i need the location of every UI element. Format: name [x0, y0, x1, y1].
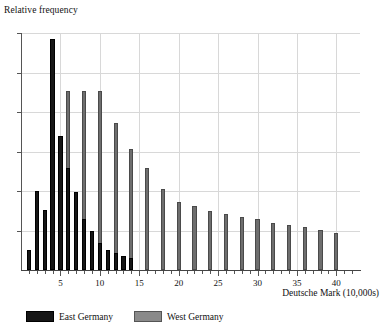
legend-swatch-west — [134, 311, 162, 322]
bar-west-14 — [129, 149, 133, 270]
x-axis-tick-label: 30 — [253, 278, 262, 288]
bar-east-4 — [50, 39, 54, 270]
x-axis-tick-minor — [242, 271, 243, 274]
x-axis-tick-major — [297, 271, 298, 276]
x-axis-tick-minor — [194, 271, 195, 274]
bar-west-12 — [114, 123, 118, 270]
x-axis-tick-label: 10 — [95, 278, 104, 288]
gridline-horizontal — [21, 231, 360, 232]
x-axis-tick-minor — [344, 271, 345, 274]
bar-west-26 — [224, 214, 228, 270]
x-axis-tick-minor — [289, 271, 290, 274]
x-axis-tick-major — [100, 271, 101, 276]
x-axis-tick-minor — [305, 271, 306, 274]
x-axis-tick-label: 15 — [135, 278, 144, 288]
legend-swatch-east — [26, 311, 54, 322]
x-axis-tick-minor — [53, 271, 54, 274]
bar-east-13 — [121, 256, 125, 270]
bar-east-1 — [27, 250, 31, 270]
x-axis-label: Deutsche Mark (10,000s) — [282, 288, 379, 298]
x-axis-tick-label: 20 — [174, 278, 183, 288]
x-axis-tick-minor — [210, 271, 211, 274]
bar-west-22 — [192, 206, 196, 270]
x-axis-tick-major — [139, 271, 140, 276]
bar-west-32 — [271, 223, 275, 270]
y-axis-label: Relative frequency — [4, 5, 78, 15]
x-axis-tick-label: 5 — [58, 278, 63, 288]
bar-west-30 — [255, 219, 259, 270]
bar-west-28 — [240, 217, 244, 270]
bar-west-20 — [177, 202, 181, 270]
bar-east-6 — [66, 168, 70, 270]
bar-west-24 — [208, 211, 212, 270]
y-axis-line — [21, 33, 22, 271]
x-axis-tick-minor — [281, 271, 282, 274]
bar-east-7 — [74, 192, 78, 270]
legend-label-west: West Germany — [167, 312, 223, 322]
chart-legend: East GermanyWest Germany — [26, 311, 238, 322]
x-axis-tick-minor — [147, 271, 148, 274]
bar-east-12 — [114, 253, 118, 270]
x-axis-tick-minor — [76, 271, 77, 274]
x-axis-tick-minor — [352, 271, 353, 274]
bar-west-40 — [334, 233, 338, 270]
bar-west-36 — [303, 227, 307, 270]
x-axis-tick-minor — [84, 271, 85, 274]
gridline-horizontal — [21, 73, 360, 74]
bar-east-9 — [90, 231, 94, 270]
x-axis-tick-minor — [265, 271, 266, 274]
x-axis-tick-major — [258, 271, 259, 276]
x-axis-tick-minor — [226, 271, 227, 274]
x-axis-tick-minor — [321, 271, 322, 274]
legend-item-east: East Germany — [26, 311, 113, 322]
x-axis-tick-minor — [313, 271, 314, 274]
x-axis-tick-minor — [45, 271, 46, 274]
x-axis-tick-minor — [131, 271, 132, 274]
bar-west-18 — [161, 189, 165, 270]
bar-west-34 — [287, 225, 291, 270]
x-axis-tick-minor — [163, 271, 164, 274]
bar-east-2 — [35, 191, 39, 270]
x-axis-tick-label: 25 — [214, 278, 223, 288]
x-axis-tick-minor — [123, 271, 124, 274]
gridline-vertical — [218, 33, 219, 270]
x-axis-tick-label: 35 — [292, 278, 301, 288]
x-axis-tick-label: 40 — [332, 278, 341, 288]
gridline-horizontal — [21, 112, 360, 113]
x-axis-tick-minor — [234, 271, 235, 274]
x-axis-tick-major — [336, 271, 337, 276]
x-axis-tick-minor — [202, 271, 203, 274]
x-axis-tick-minor — [92, 271, 93, 274]
gridline-horizontal — [21, 191, 360, 192]
x-axis-tick-minor — [37, 271, 38, 274]
legend-item-west: West Germany — [134, 311, 223, 322]
bar-east-3 — [43, 210, 47, 270]
plot-area — [21, 33, 360, 270]
gridline-vertical — [139, 33, 140, 270]
bar-east-8 — [82, 219, 86, 270]
bar-west-16 — [145, 168, 149, 270]
x-axis-tick-minor — [155, 271, 156, 274]
x-axis-tick-minor — [187, 271, 188, 274]
bar-east-10 — [98, 243, 102, 270]
x-axis-tick-minor — [108, 271, 109, 274]
x-axis-tick-minor — [29, 271, 30, 274]
x-axis-tick-minor — [68, 271, 69, 274]
legend-label-east: East Germany — [59, 312, 113, 322]
gridline-vertical — [297, 33, 298, 270]
x-axis-tick-minor — [328, 271, 329, 274]
x-axis-tick-minor — [273, 271, 274, 274]
x-axis-tick-minor — [171, 271, 172, 274]
gridline-horizontal — [21, 152, 360, 153]
x-axis-tick-major — [218, 271, 219, 276]
bar-west-38 — [318, 230, 322, 270]
bar-east-11 — [106, 250, 110, 270]
bar-east-14 — [129, 258, 133, 270]
x-axis-tick-minor — [250, 271, 251, 274]
bar-east-5 — [58, 136, 62, 270]
x-axis-tick-major — [60, 271, 61, 276]
gridline-horizontal — [21, 33, 360, 34]
x-axis-tick-major — [179, 271, 180, 276]
x-axis-tick-minor — [116, 271, 117, 274]
relative-frequency-bar-chart: Relative frequency 510152025303540 Deuts… — [0, 0, 385, 335]
